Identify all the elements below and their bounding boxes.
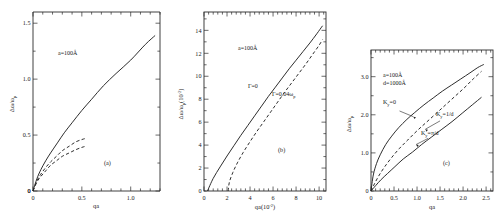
panel-a-axes xyxy=(33,12,160,191)
panel-c-svg: 1.02.03.00 00.51.01.52.02.5 qa Δω/ωp a=1… xyxy=(333,0,503,215)
panel-c-label-ky-pi-d: Ky=π/d xyxy=(421,130,439,138)
panel-b-ytick-label: 10 xyxy=(195,72,201,79)
panel-a-tag: (a) xyxy=(104,159,111,167)
panel-b-label-gamma-zero: Γ=0 xyxy=(248,83,258,89)
panel-c-ytick-label: 0 xyxy=(365,187,368,194)
panel-c-leader-lines xyxy=(400,111,441,147)
panel-a-y-axis-label: Δω/ωp xyxy=(8,96,17,112)
panel-b-ytick-label: 2 xyxy=(198,164,201,171)
panel-c-annotation-a: a=100Å xyxy=(383,71,403,78)
panel-b-x-ticks: 0246810 xyxy=(202,12,323,201)
panel-c-xtick-label: 1.0 xyxy=(413,194,421,201)
panel-c-xtick-label: 1.5 xyxy=(436,194,444,201)
curve-upper-branch xyxy=(33,35,155,191)
panel-c-leader-arrow xyxy=(416,145,419,147)
panel-b-xtick-label: 4 xyxy=(248,194,251,201)
panel-b-xtick-label: 2 xyxy=(225,194,228,201)
panel-a: 00.51.01.50 00.51.0 qa Δω/ωp a=100Å (a) xyxy=(0,0,170,215)
panel-b-xtick-label: 0 xyxy=(202,194,205,201)
panel-c-x-axis-label: qa xyxy=(429,203,435,210)
panel-a-xtick-label: 0.5 xyxy=(78,194,86,201)
panel-a-svg: 00.51.01.50 00.51.0 qa Δω/ωp a=100Å (a) xyxy=(0,0,170,215)
panel-a-ytick-label: 1.0 xyxy=(23,75,31,82)
panel-c-xtick-label: 2.0 xyxy=(459,194,467,201)
figure-container: 00.51.01.50 00.51.0 qa Δω/ωp a=100Å (a) … xyxy=(0,0,503,215)
panel-b-y-axis-label: Δω/ωp(10-2) xyxy=(177,89,186,120)
panel-a-x-ticks: 00.51.0 xyxy=(31,12,160,201)
panel-b-ytick-label: 0 xyxy=(198,187,201,194)
panel-c-tag: (c) xyxy=(443,159,450,167)
panel-c-ytick-label: 2.0 xyxy=(361,111,369,118)
panel-b-ytick-label: 6 xyxy=(198,118,201,125)
panel-b-ytick-label: 12 xyxy=(195,50,201,57)
panel-b-xtick-label: 10 xyxy=(316,194,322,201)
panel-c-leader-arrow xyxy=(413,117,416,119)
panel-a-y-ticks: 00.51.01.50 xyxy=(23,19,160,194)
panel-c-y-axis-label: Δω/ωp xyxy=(345,116,354,132)
panel-b-xtick-label: 6 xyxy=(272,194,275,201)
panel-c-label-ky-inv-d: Ky=1/d xyxy=(436,111,454,119)
panel-c-ytick-label: 1.0 xyxy=(361,149,369,156)
panel-b-x-axis-label: qa(10-2) xyxy=(255,203,275,211)
panel-b-curves xyxy=(207,26,322,191)
panel-a-xtick-label: 1.0 xyxy=(127,194,135,201)
curve-gamma-damped xyxy=(228,40,322,191)
panel-a-ytick-label: 0 xyxy=(27,187,30,194)
panel-c-label-ky-zero: Ky=0 xyxy=(383,99,396,107)
panel-b-xtick-label: 8 xyxy=(295,194,298,201)
panel-c-xtick-label: 0 xyxy=(369,194,372,201)
panel-a-annotation-a: a=100Å xyxy=(58,49,78,56)
panel-c-leader-line xyxy=(400,111,414,117)
curve-gamma-zero xyxy=(207,26,322,191)
panel-b-ytick-label: 4 xyxy=(198,141,201,148)
panel-b-ytick-label: 8 xyxy=(198,95,201,102)
panel-b: 24681012140 0246810 qa(10-2) Δω/ωp(10-2)… xyxy=(166,0,336,215)
panel-a-ytick-label: 0.5 xyxy=(23,131,31,138)
curve-middle-branch xyxy=(33,138,86,191)
panel-c-annotation-d: d=1000Å xyxy=(383,79,406,86)
panel-b-tag: (b) xyxy=(278,146,285,154)
panel-c-leader-line xyxy=(425,121,440,129)
panel-c: 1.02.03.00 00.51.01.52.02.5 qa Δω/ωp a=1… xyxy=(333,0,503,215)
panel-a-x-axis-label: qa xyxy=(93,202,99,209)
panel-b-annotation-a: a=100Å xyxy=(238,44,258,51)
panel-a-xtick-label: 0 xyxy=(31,194,34,201)
panel-c-xtick-label: 2.5 xyxy=(482,194,490,201)
curve-Ky-pi-over-d xyxy=(371,97,481,191)
panel-b-label-gamma-damped: Γ=0.04ωp xyxy=(272,91,295,99)
panel-b-svg: 24681012140 0246810 qa(10-2) Δω/ωp(10-2)… xyxy=(166,0,336,215)
panel-a-curves xyxy=(33,35,155,191)
panel-b-ytick-label: 14 xyxy=(195,27,201,34)
panel-a-ytick-label: 1.5 xyxy=(23,19,31,26)
panel-c-ytick-label: 3.0 xyxy=(361,73,369,80)
panel-c-xtick-label: 0.5 xyxy=(390,194,398,201)
